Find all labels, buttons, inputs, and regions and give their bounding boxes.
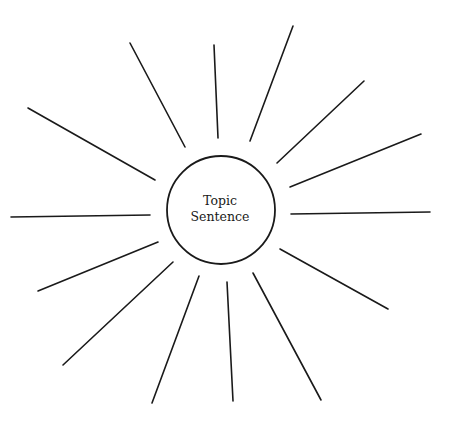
- label-line-sentence: Sentence: [167, 209, 273, 225]
- ray-line-5: [277, 81, 364, 163]
- ray-line-12: [63, 262, 173, 365]
- ray-line-9: [253, 273, 321, 400]
- ray-line-3: [214, 45, 218, 138]
- ray-line-13: [38, 242, 158, 291]
- ray-line-1: [28, 108, 155, 180]
- ray-line-8: [280, 249, 388, 309]
- ray-line-6: [290, 134, 421, 187]
- ray-line-7: [291, 212, 430, 214]
- ray-line-14: [11, 215, 150, 217]
- ray-line-2: [130, 43, 185, 147]
- ray-line-10: [227, 282, 233, 401]
- topic-sentence-label: Topic Sentence: [167, 193, 273, 225]
- label-line-topic: Topic: [167, 193, 273, 209]
- ray-line-4: [250, 26, 293, 141]
- ray-line-11: [152, 276, 199, 403]
